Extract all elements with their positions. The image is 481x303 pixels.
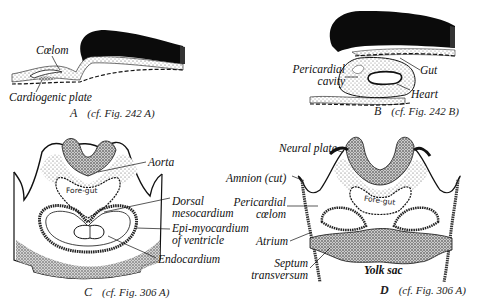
label-amnion-cut: Amnion (cut) — [226, 172, 286, 184]
label-c-fore-gut: Fore-gut — [66, 186, 97, 195]
label-coelom: Cœlom — [36, 44, 69, 56]
caption-c-letter: C — [84, 285, 92, 299]
label-heart: Heart — [411, 88, 438, 100]
label-pericardial-coelom-line1: Pericardial — [230, 196, 286, 208]
label-gut: Gut — [420, 64, 437, 76]
caption-b: B(cf. Fig. 242 B) — [374, 104, 459, 119]
label-epi-myocardium-line2: of ventricle — [172, 234, 249, 246]
caption-d-letter: D — [380, 283, 389, 297]
caption-b-reference: (cf. Fig. 242 B) — [391, 105, 459, 117]
label-septum-transversum: Septum transversum — [246, 257, 308, 281]
label-neural-plate: Neural plate — [279, 142, 337, 154]
label-pericardial-coelom-line2: cœlom — [230, 208, 286, 220]
label-yolk-sac: Yolk sac — [364, 264, 403, 276]
label-dorsal-mesocardium-line2: mesocardium — [172, 207, 234, 219]
panel-a-drawing — [12, 30, 185, 92]
label-atrium: Atrium — [256, 235, 288, 247]
embryo-heart-diagram — [0, 0, 481, 303]
panel-d-drawing — [287, 137, 460, 282]
label-septum-transversum-line1: Septum — [246, 257, 308, 269]
label-pericardial-coelom: Pericardial cœlom — [230, 196, 286, 220]
caption-c: C(cf. Fig. 306 A) — [84, 285, 169, 300]
caption-a-reference: (cf. Fig. 242 A) — [87, 107, 154, 119]
label-endocardium: Endocardium — [158, 253, 220, 265]
caption-a: A(cf. Fig. 242 A) — [70, 106, 155, 121]
caption-d-reference: (cf. Fig. 306 A) — [399, 284, 466, 296]
label-aorta: Aorta — [148, 156, 174, 168]
label-pericardial-cavity-line2: cavity — [290, 75, 345, 87]
label-dorsal-mesocardium-line1: Dorsal — [172, 195, 234, 207]
label-epi-myocardium-line1: Epi-myocardium — [172, 222, 249, 234]
label-pericardial-cavity-line1: Pericardial — [290, 63, 345, 75]
label-epi-myocardium: Epi-myocardium of ventricle — [172, 222, 249, 246]
label-cardiogenic-plate: Cardiogenic plate — [9, 91, 92, 103]
label-septum-transversum-line2: transversum — [246, 269, 308, 281]
panel-c-drawing — [14, 139, 170, 279]
caption-b-letter: B — [374, 104, 381, 118]
label-pericardial-cavity: Pericardial cavity — [290, 63, 345, 87]
caption-c-reference: (cf. Fig. 306 A) — [102, 286, 169, 298]
caption-a-letter: A — [70, 106, 77, 120]
label-dorsal-mesocardium: Dorsal mesocardium — [172, 195, 234, 219]
caption-d: D(cf. Fig. 306 A) — [380, 283, 466, 298]
